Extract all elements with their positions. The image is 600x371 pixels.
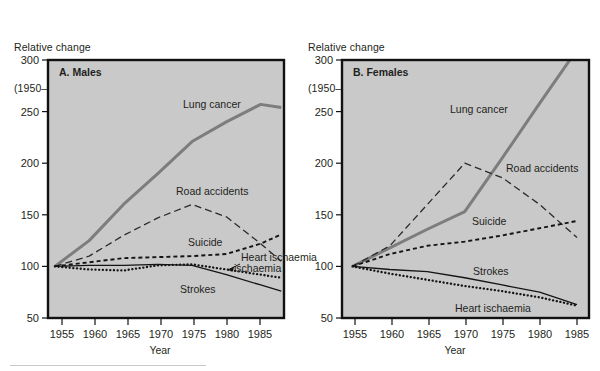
x-tick-label: 1975 bbox=[182, 328, 206, 340]
series-label-strokes: Strokes bbox=[180, 283, 216, 295]
x-tick-label: 1980 bbox=[528, 328, 552, 340]
panel-title-females: B. Females bbox=[353, 66, 409, 78]
series-label-road-accidents: Road accidents bbox=[176, 185, 248, 197]
y-tick-label: 50 bbox=[27, 312, 39, 324]
series-label-lung-cancer: Lung cancer bbox=[183, 98, 241, 110]
plot-area-background-females bbox=[342, 60, 589, 318]
plot-svg-females: 300 250 200 150 100 50 1955 1960 1965 bbox=[300, 0, 600, 371]
x-tick-label: 1960 bbox=[380, 328, 404, 340]
x-tick-label: 1965 bbox=[116, 328, 140, 340]
x-tick-label: 1975 bbox=[491, 328, 515, 340]
x-axis-tick-labels-females: 1955 1960 1965 1970 1975 1980 1985 bbox=[343, 328, 589, 340]
figure-two-panel-line-chart: Relative change (1950–54 = 100) 300 250 … bbox=[0, 0, 600, 371]
x-tick-label: 1965 bbox=[417, 328, 441, 340]
x-tick-label: 1955 bbox=[343, 328, 367, 340]
x-tick-label: 1970 bbox=[454, 328, 478, 340]
y-tick-label: 100 bbox=[21, 260, 39, 272]
y-tick-label: 150 bbox=[21, 209, 39, 221]
y-tick-label: 300 bbox=[21, 54, 39, 66]
y-tick-label: 300 bbox=[315, 54, 333, 66]
y-tick-label: 50 bbox=[321, 312, 333, 324]
panel-title-males: A. Males bbox=[59, 66, 102, 78]
y-tick-label: 150 bbox=[315, 209, 333, 221]
y-tick-label: 100 bbox=[315, 260, 333, 272]
x-axis-title-females: Year bbox=[415, 344, 495, 356]
series-label-road-accidents: Road accidents bbox=[506, 162, 578, 174]
x-tick-label: 1985 bbox=[565, 328, 589, 340]
x-axis-tick-labels-males: 1955 1960 1965 1970 1975 1980 1985 bbox=[50, 328, 272, 340]
x-tick-label: 1970 bbox=[149, 328, 173, 340]
panel-females: Relative change (1950–54 = 100) 300 250 … bbox=[300, 0, 600, 371]
y-axis-tick-labels-males: 300 250 200 150 100 50 bbox=[21, 54, 39, 324]
y-tick-label: 200 bbox=[315, 157, 333, 169]
y-tick-label: 200 bbox=[21, 157, 39, 169]
y-tick-label: 250 bbox=[315, 106, 333, 118]
x-axis-title-males: Year bbox=[120, 344, 200, 356]
x-tick-label: 1980 bbox=[215, 328, 239, 340]
series-label-suicide: Suicide bbox=[188, 236, 223, 248]
series-label-strokes: Strokes bbox=[473, 265, 509, 277]
plot-area-background-males bbox=[48, 60, 284, 318]
series-label-suicide: Suicide bbox=[472, 215, 507, 227]
x-tick-label: 1960 bbox=[83, 328, 107, 340]
y-axis-tick-labels-females: 300 250 200 150 100 50 bbox=[315, 54, 333, 324]
x-tick-label: 1955 bbox=[50, 328, 74, 340]
series-label-heart-ischaemia: Heart ischaemia bbox=[455, 302, 531, 314]
series-label-heart-ischaemia-l2: ischaemia bbox=[234, 262, 281, 274]
plot-svg-males: 300 250 200 150 100 50 1955 1960 1965 bbox=[0, 0, 300, 371]
x-tick-label: 1985 bbox=[248, 328, 272, 340]
panel-males: Relative change (1950–54 = 100) 300 250 … bbox=[0, 0, 300, 371]
footer-rule bbox=[10, 365, 206, 366]
y-tick-label: 250 bbox=[21, 106, 39, 118]
series-label-lung-cancer: Lung cancer bbox=[450, 103, 508, 115]
